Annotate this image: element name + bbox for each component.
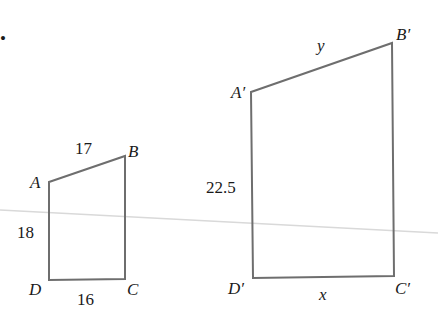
vertex-b-label: B [128,142,139,161]
side-dc-length: 16 [77,290,94,309]
vertex-d-label: D [28,280,42,299]
side-a-prime-b-prime-length: y [315,36,325,55]
vertex-c-label: C [127,280,139,299]
quadrilateral-a-prime-b-prime-c-prime-d-prime [251,43,394,278]
similar-quadrilaterals-diagram: • A B C D 17 18 16 A′ B′ C′ D′ y 22.5 x [0,0,438,322]
vertex-c-prime-label: C′ [395,279,410,298]
side-a-prime-d-prime-length: 22.5 [206,178,236,197]
quadrilateral-abcd [49,156,125,280]
vertex-b-prime-label: B′ [396,25,410,44]
vertex-d-prime-label: D′ [227,279,244,298]
scan-artifact-line [0,210,438,233]
vertex-a-prime-label: A′ [230,83,245,102]
side-ad-length: 18 [17,223,34,242]
vertex-a-label: A [29,173,41,192]
problem-marker: • [0,29,6,48]
side-d-prime-c-prime-length: x [318,285,327,304]
side-ab-length: 17 [75,139,93,158]
